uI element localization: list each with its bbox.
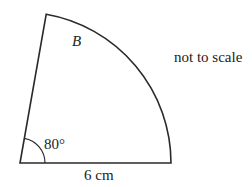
angle-label: 80° bbox=[44, 136, 65, 152]
scale-note: not to scale bbox=[174, 49, 243, 65]
radius-label: 6 cm bbox=[84, 167, 114, 183]
angle-marker-arc bbox=[24, 138, 45, 163]
sector-diagram: B 80° 6 cm not to scale bbox=[0, 0, 252, 187]
region-label: B bbox=[72, 33, 81, 49]
sector-outline bbox=[20, 14, 171, 163]
